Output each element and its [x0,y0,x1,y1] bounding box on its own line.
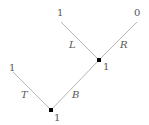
leaf-l-value: 1 [57,7,63,18]
edge-t [13,72,51,110]
mid-value: 1 [103,61,109,72]
mid-node [97,58,101,62]
edge-b [51,60,99,110]
edge-r [99,22,137,60]
tree-diagram: 1 1 1 1 0 T B L R [0,0,149,125]
edge-l [61,22,99,60]
root-node [49,108,53,112]
edge-r-label: R [119,39,128,50]
edge-l-label: L [68,39,76,50]
root-value: 1 [54,112,60,123]
leaf-r-value: 0 [134,7,140,18]
edge-b-label: B [71,89,79,100]
edge-t-label: T [21,89,29,100]
leaf-t-value: 1 [9,62,15,73]
